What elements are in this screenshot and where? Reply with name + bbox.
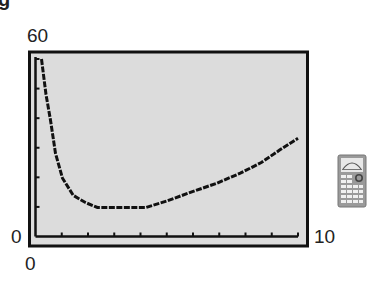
calculator-graph: [0, 0, 368, 286]
graphing-calculator-icon: [337, 154, 367, 208]
graph-screen: [30, 52, 308, 246]
